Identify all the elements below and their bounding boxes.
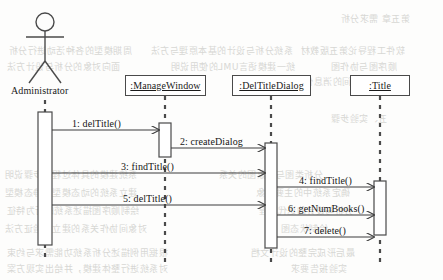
message-label-5: 5: delTitle() [123, 193, 172, 204]
actor-right-leg-icon [45, 61, 61, 83]
message-label-4: 4: findTitle() [299, 175, 352, 186]
message-label-2: 2: createDialog [180, 136, 243, 147]
actor-stick-figure [26, 13, 64, 83]
object-box-managewindow: :ManageWindow [125, 75, 206, 96]
object-box-label-deltitledialog: :DelTitleDialog [239, 80, 303, 91]
message-label-1: 1: delTitle() [72, 118, 121, 129]
activation-bar-managewindow-0 [159, 123, 171, 157]
activation-bar-title-0 [374, 181, 386, 235]
activation-bar-deltitledialog-0 [265, 143, 277, 248]
actor-left-leg-icon [29, 61, 45, 83]
actor-head-icon [36, 13, 54, 31]
object-box-deltitledialog: :DelTitleDialog [232, 75, 311, 96]
object-box-label-title: :Title [369, 80, 391, 91]
object-box-label-managewindow: :ManageWindow [130, 80, 200, 91]
message-label-3: 3: findTitle() [121, 161, 174, 172]
message-label-7: 7: delete() [304, 225, 346, 236]
object-box-title: :Title [350, 75, 410, 96]
message-label-6: 6: getNumBooks() [288, 203, 364, 214]
sequence-diagram-canvas: 周期模型的各种活动进行分析系统分析与设计的基本原理与方法软件工程导论第五版教材面… [0, 0, 443, 280]
actor-label-administrator: Administrator [11, 85, 68, 96]
activation-bar-actor [38, 112, 52, 245]
